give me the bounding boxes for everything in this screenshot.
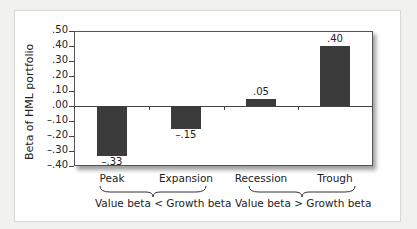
group-label-value-gt-growth: Value beta > Growth beta xyxy=(235,197,371,209)
group-label-value-lt-growth: Value beta < Growth beta xyxy=(95,197,231,209)
brace-left-icon xyxy=(0,0,417,229)
